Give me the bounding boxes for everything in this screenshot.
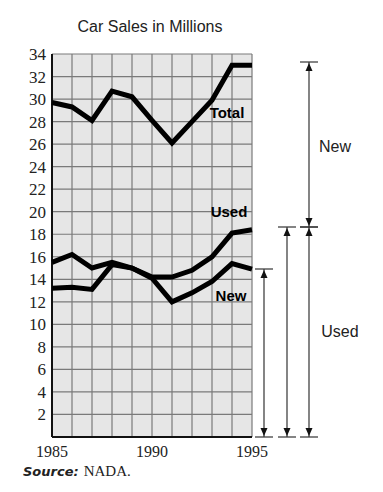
y-tick-label: 32 [29,68,46,87]
y-axis-ticks: 246810121416182022242628303234 [29,45,47,424]
bracket [278,227,296,437]
y-tick-label: 16 [29,248,46,267]
x-tick-1995: 1995 [236,443,268,460]
plot-area: 246810121416182022242628303234 Total Use… [0,0,383,492]
bracket [300,62,318,227]
bracket-label-used: Used [321,323,358,340]
y-tick-label: 34 [29,45,47,64]
y-tick-label: 4 [38,383,47,402]
y-tick-label: 22 [29,180,46,199]
source-label: Source: [23,464,79,479]
bracket [300,227,318,437]
series-label-used: Used [211,203,248,220]
series-label-total: Total [210,104,245,121]
range-brackets [255,62,318,437]
x-tick-1990: 1990 [136,443,168,460]
series-label-new: New [216,287,247,304]
y-tick-label: 12 [29,293,46,312]
y-tick-label: 20 [29,203,46,222]
source-note: Source:NADA. [23,463,131,480]
chart: Car Sales in Millions 246810121416182022… [0,0,383,492]
y-tick-label: 30 [29,90,46,109]
y-tick-label: 2 [38,405,47,424]
source-value: NADA. [84,463,131,479]
y-tick-label: 10 [29,315,46,334]
y-tick-label: 18 [29,225,46,244]
x-tick-1985: 1985 [36,443,68,460]
y-tick-label: 26 [29,135,46,154]
y-tick-label: 24 [29,158,47,177]
y-tick-label: 6 [38,360,47,379]
bracket [255,269,273,437]
bracket-label-new: New [319,138,351,155]
y-tick-label: 8 [38,338,47,357]
y-tick-label: 28 [29,113,46,132]
y-tick-label: 14 [29,270,47,289]
